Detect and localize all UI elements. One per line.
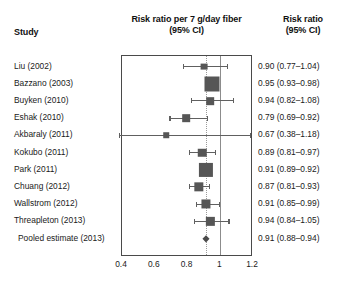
study-estimate-marker [182,114,190,122]
result-value: 0.79 (0.69–0.92) [258,112,350,122]
ci-cap-lower [189,150,190,155]
ci-cap-upper [215,150,216,155]
column-header-plot-line2: (95% CI) [121,25,252,36]
ci-cap-upper [207,116,208,121]
result-value: 0.90 (0.77–1.04) [258,61,350,71]
result-value: 0.67 (0.38–1.18) [258,129,350,139]
study-label: Park (2011) [14,164,57,174]
study-estimate-marker [207,97,215,105]
x-axis: 0.40.60.811.2 [121,256,252,278]
result-value: 0.91 (0.85–0.99) [258,198,350,208]
column-header-plot: Risk ratio per 7 g/day fiber (95% CI) [121,14,252,36]
ci-cap-lower [183,64,184,69]
ci-cap-lower [169,116,170,121]
study-estimate-marker [206,217,214,225]
column-header-result-line2: (95% CI) [258,25,348,36]
ci-cap-upper [219,202,220,207]
x-axis-tick-label: 1.2 [246,259,258,269]
x-axis-tick-label: 0.8 [181,259,193,269]
ci-cap-upper [227,64,228,69]
study-estimate-marker [200,63,207,70]
ci-cap-lower [194,219,195,224]
study-label: Buyken (2010) [14,95,68,105]
plot-inner [122,56,251,255]
reference-line-null-effect [220,56,221,255]
study-label: Kokubo (2011) [14,147,68,157]
ci-cap-upper [209,184,210,189]
ci-cap-upper [228,219,229,224]
study-estimate-marker [201,200,210,209]
result-value: 0.89 (0.81–0.97) [258,147,350,157]
ci-cap-lower [189,184,190,189]
study-label: Eshak (2010) [14,112,64,122]
x-axis-tick-label: 0.6 [148,259,160,269]
study-estimate-marker [198,163,212,177]
study-label: Wallstrom (2012) [14,198,77,208]
confidence-interval-line [119,135,250,136]
column-header-study: Study [14,27,39,38]
result-value: 0.95 (0.93–0.98) [258,78,350,88]
study-estimate-marker [198,148,206,156]
ci-cap-lower [196,202,197,207]
study-label: Threapleton (2013) [14,215,85,225]
ci-cap-lower [191,98,192,103]
result-value: 0.91 (0.89–0.92) [258,164,350,174]
study-label-pooled: Pooled estimate (2013) [18,233,105,243]
study-label: Liu (2002) [14,61,52,71]
study-estimate-marker [205,76,220,91]
forest-plot: Study Risk ratio per 7 g/day fiber (95% … [0,0,354,281]
study-estimate-marker [163,133,169,139]
study-estimate-marker [194,182,203,191]
result-value: 0.94 (0.82–1.08) [258,95,350,105]
x-axis-tick-label: 1 [217,259,222,269]
ci-cap-upper [233,98,234,103]
column-header-result-line1: Risk ratio [258,14,348,25]
column-header-plot-line1: Risk ratio per 7 g/day fiber [121,14,252,25]
study-label: Chuang (2012) [14,181,70,191]
result-value-pooled: 0.91 (0.88–0.94) [258,233,350,243]
pooled-estimate-diamond [202,235,209,242]
x-axis-tick-label: 0.4 [115,259,127,269]
result-value: 0.87 (0.81–0.93) [258,181,350,191]
plot-area [121,55,252,256]
result-value: 0.94 (0.84–1.05) [258,215,350,225]
study-label: Akbaraly (2011) [14,129,73,139]
ci-cap-lower [119,133,120,138]
ci-cap-upper [250,133,251,138]
column-header-result: Risk ratio (95% CI) [258,14,348,36]
study-label: Bazzano (2003) [14,78,73,88]
